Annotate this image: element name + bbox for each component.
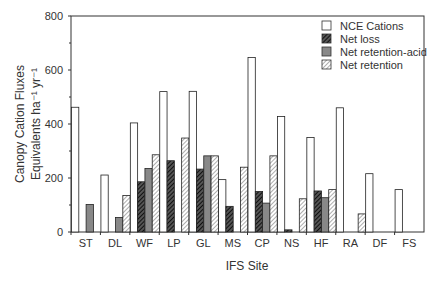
- bar-nce-cations-ns: [277, 116, 284, 232]
- bar-net-retention-dl: [123, 196, 130, 232]
- legend-swatch: [322, 60, 331, 69]
- bar-net-retention-acid-cp: [263, 203, 270, 232]
- bar-net-retention-cp: [270, 156, 277, 232]
- x-tick-label: ST: [79, 237, 93, 249]
- bar-net-retention-acid-hf: [321, 198, 328, 232]
- bar-nce-cations-wf: [130, 123, 137, 232]
- bar-net-retention-ns: [299, 199, 306, 232]
- legend-label: Net retention: [340, 59, 403, 71]
- y-axis-title-line2: Equivalents ha⁻¹ yr⁻¹: [29, 68, 43, 180]
- x-tick-label: NS: [284, 237, 299, 249]
- bar-net-retention-ra: [358, 214, 365, 232]
- bar-net-retention-hf: [329, 190, 336, 232]
- bar-net-retention-acid-dl: [116, 217, 123, 232]
- bar-nce-cations-gl: [189, 91, 196, 232]
- bar-net-retention-acid-wf: [145, 169, 152, 232]
- bar-nce-cations-st: [72, 107, 79, 232]
- bar-nce-cations-ra: [336, 108, 343, 232]
- bar-nce-cations-hf: [307, 138, 314, 233]
- x-tick-label: DL: [108, 237, 122, 249]
- bar-net-retention-lp: [182, 138, 189, 232]
- y-tick-label: 400: [45, 118, 63, 130]
- bar-net-loss-ms: [226, 206, 233, 232]
- y-tick-label: 0: [57, 226, 63, 238]
- x-axis-title: IFS Site: [226, 259, 269, 273]
- x-axis: STDLWFLPGLMSCPNSHFRADFFS: [71, 232, 416, 249]
- x-tick-label: LP: [167, 237, 180, 249]
- bar-nce-cations-dl: [101, 175, 108, 232]
- y-tick-label: 200: [45, 172, 63, 184]
- bar-net-retention-acid-st: [86, 204, 93, 232]
- bar-net-retention-wf: [152, 155, 159, 232]
- bar-nce-cations-df: [366, 174, 373, 232]
- x-tick-label: CP: [255, 237, 270, 249]
- legend-swatch: [322, 47, 331, 56]
- bar-nce-cations-ms: [219, 180, 226, 232]
- bar-nce-cations-fs: [395, 190, 402, 232]
- bar-nce-cations-lp: [160, 92, 167, 232]
- bar-net-loss-gl: [196, 169, 203, 232]
- x-tick-label: FS: [402, 237, 416, 249]
- bar-nce-cations-cp: [248, 58, 255, 232]
- legend-swatch: [322, 21, 331, 30]
- bar-net-retention-ms: [240, 167, 247, 232]
- bar-net-loss-hf: [314, 191, 321, 232]
- bar-net-loss-lp: [167, 161, 174, 232]
- bar-net-loss-cp: [255, 192, 262, 233]
- x-tick-label: HF: [314, 237, 329, 249]
- legend-label: NCE Cations: [340, 20, 404, 32]
- legend-label: Net retention-acid: [340, 46, 427, 58]
- legend-swatch: [322, 34, 331, 43]
- y-axis-title-line1: Canopy Cation Fluxes: [13, 65, 27, 183]
- y-axis: 0200400600800: [45, 10, 71, 238]
- y-tick-label: 800: [45, 10, 63, 22]
- bar-net-loss-ns: [285, 230, 292, 232]
- y-tick-label: 600: [45, 64, 63, 76]
- bar-net-retention-gl: [211, 156, 218, 232]
- x-tick-label: DF: [373, 237, 388, 249]
- bar-net-retention-acid-gl: [204, 156, 211, 232]
- bar-net-loss-wf: [138, 182, 145, 232]
- bar-chart: 0200400600800 STDLWFLPGLMSCPNSHFRADFFS C…: [0, 0, 440, 283]
- x-tick-label: GL: [196, 237, 211, 249]
- x-tick-label: MS: [225, 237, 242, 249]
- x-tick-label: WF: [136, 237, 153, 249]
- legend-label: Net loss: [340, 33, 380, 45]
- x-tick-label: RA: [343, 237, 359, 249]
